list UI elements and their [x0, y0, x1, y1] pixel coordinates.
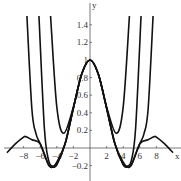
x-tick-label: −8 [19, 151, 29, 161]
x-tick-label: 2 [104, 151, 109, 161]
chart-plot: −8−6−4−22468−0.20.20.40.60.811.21.4 y x [0, 0, 181, 181]
y-tick-label: −0.2 [72, 161, 88, 171]
y-tick-label: 0.4 [77, 108, 89, 118]
y-tick-label: 0.2 [77, 125, 88, 135]
x-tick-label: −2 [69, 151, 79, 161]
y-tick-label: 0.6 [77, 90, 89, 100]
y-tick-label: 1.2 [77, 37, 88, 47]
x-tick-label: 8 [154, 151, 159, 161]
y-tick-label: 1.4 [77, 20, 89, 30]
y-tick-label: 0.8 [77, 73, 89, 83]
x-axis-label: x [175, 151, 180, 161]
y-axis-label: y [92, 0, 97, 10]
x-tick-label: 6 [138, 151, 143, 161]
